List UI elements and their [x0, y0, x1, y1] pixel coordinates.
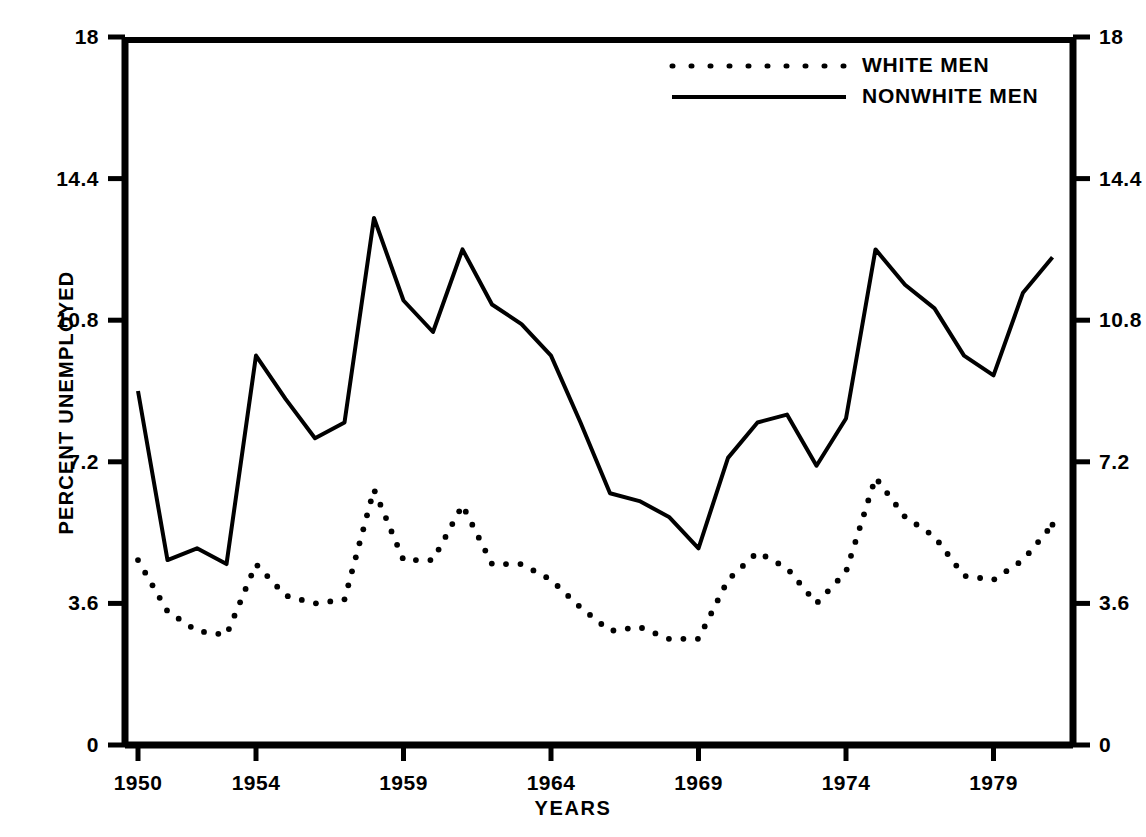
y-tick-label-right-0: 0: [1099, 733, 1111, 757]
x-tick-label-2: 1959: [379, 771, 428, 795]
y-tick-label-left-4: 14.4: [0, 167, 99, 191]
y-tick-label-left-3: 10.8: [0, 308, 99, 332]
x-tick-label-1: 1954: [232, 771, 281, 795]
series-dots-white-men: [135, 479, 1055, 642]
chart-plot-area: [0, 0, 1146, 837]
x-tick-label-4: 1969: [674, 771, 723, 795]
legend-label-nonwhite-men: NONWHITE MEN: [862, 84, 1038, 108]
x-tick-label-3: 1964: [527, 771, 576, 795]
x-tick-label-0: 1950: [114, 771, 163, 795]
legend-swatches: [672, 66, 846, 97]
y-tick-label-right-2: 7.2: [1099, 450, 1130, 474]
x-axis-label: YEARS: [0, 797, 1146, 820]
legend-label-white-men: WHITE MEN: [862, 53, 989, 77]
y-tick-label-right-4: 14.4: [1099, 167, 1142, 191]
x-tick-label-5: 1974: [822, 771, 871, 795]
y-axis-label: PERCENT UNEMPLOYED: [55, 253, 78, 553]
y-tick-label-right-1: 3.6: [1099, 591, 1130, 615]
series-line-nonwhite-men: [138, 218, 1053, 564]
y-tick-label-right-3: 10.8: [1099, 308, 1142, 332]
data-series-layer: [135, 218, 1055, 642]
y-tick-label-left-1: 3.6: [0, 591, 99, 615]
y-tick-label-left-0: 0: [0, 733, 99, 757]
y-tick-label-left-2: 7.2: [0, 450, 99, 474]
y-tick-label-left-5: 18: [0, 25, 99, 49]
x-tick-label-6: 1979: [969, 771, 1018, 795]
y-axis-ticks: [108, 37, 1090, 745]
axis-frame: [125, 37, 1073, 745]
y-tick-label-right-5: 18: [1099, 25, 1123, 49]
unemployment-chart-figure: PERCENT UNEMPLOYED YEARS WHITE MEN NONWH…: [0, 0, 1146, 837]
